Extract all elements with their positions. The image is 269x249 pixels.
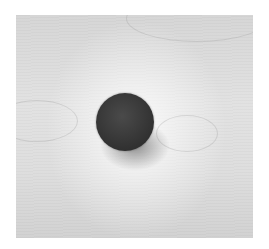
photo-wood-surface [16,15,253,238]
wood-grain-line [16,100,78,142]
wood-grain-line [126,15,253,42]
dark-ball [96,93,154,151]
